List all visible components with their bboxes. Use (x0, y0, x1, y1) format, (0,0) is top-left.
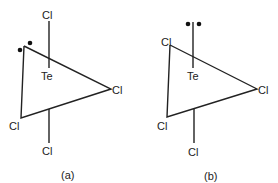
panel-b: Cl Te Cl Cl Cl (b) (157, 22, 268, 182)
central-atom-label-b: Te (187, 70, 199, 82)
lone-pair-dot-icon (186, 22, 191, 27)
lone-pair-dot-icon (18, 48, 23, 53)
ligand-right-label-a: Cl (112, 84, 122, 96)
ligand-bottom-left-label-b: Cl (157, 120, 167, 132)
lone-pair-dot-icon (28, 41, 33, 46)
caption-b: (b) (204, 170, 217, 182)
ligand-bottom-label-a: Cl (42, 145, 52, 157)
ligand-bottom-left-label-a: Cl (9, 120, 19, 132)
ligand-right-label-b: Cl (258, 84, 268, 96)
caption-a: (a) (61, 169, 74, 181)
equatorial-triangle-a (21, 46, 111, 118)
lone-pair-dot-icon (197, 22, 202, 27)
ligand-top-label-a: Cl (42, 9, 52, 21)
panel-a: Cl Te Cl Cl Cl (a) (9, 9, 122, 181)
equatorial-triangle-b (167, 45, 257, 117)
ligand-bottom-label-b: Cl (188, 146, 198, 158)
tecl4-geometry-figure: Cl Te Cl Cl Cl (a) Cl Te Cl Cl Cl (b) (0, 0, 278, 183)
central-atom-label-a: Te (41, 70, 53, 82)
ligand-upper-left-label-b: Cl (161, 36, 171, 48)
